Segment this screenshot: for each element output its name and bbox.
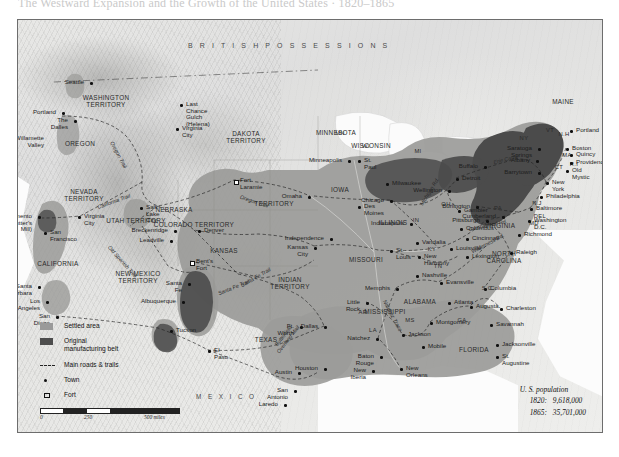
town-marker-icon xyxy=(566,170,569,173)
town-label: The Dalles xyxy=(51,117,68,130)
town-marker-icon xyxy=(460,228,463,231)
territory-label-iowa: IOWA xyxy=(331,187,349,194)
territory-label-maine: MAINE xyxy=(552,99,574,106)
town-marker-icon xyxy=(496,344,499,347)
scale-tick-miles-0: 0 xyxy=(40,414,43,420)
town-marker-icon xyxy=(458,210,461,213)
town-label: El Paso xyxy=(214,347,228,360)
state-abbr-label-vt: VT xyxy=(546,127,554,133)
town-marker-icon xyxy=(518,234,521,237)
scale-bar-kilometers: 0 250 500 kilometers xyxy=(40,432,200,433)
territory-label-wisconsin: WISCONSIN xyxy=(351,143,391,150)
town-marker-icon xyxy=(376,338,379,341)
legend-item-roads-trails: Main roads & trails xyxy=(40,361,170,369)
town-label: Baton Rouge xyxy=(356,353,374,366)
town-label: Washington D.C. xyxy=(534,217,566,230)
manufacturing-belt-santafe xyxy=(180,271,213,333)
town-marker-icon xyxy=(358,160,361,163)
legend-item-settled-area: Settled area xyxy=(40,322,170,330)
town-label: Houston xyxy=(295,365,318,372)
town-label: Memphis xyxy=(365,285,390,292)
town-label: San Francisco xyxy=(50,229,77,242)
town-marker-icon xyxy=(324,368,327,371)
town-label: Santa Fe xyxy=(166,280,182,293)
town-marker-icon xyxy=(74,120,77,123)
town-marker-icon xyxy=(456,178,459,181)
town-label: Seattle xyxy=(65,79,84,86)
town-label: San Antonio xyxy=(267,387,288,400)
territory-label-alabama: ALABAMA xyxy=(404,299,436,306)
state-abbr-label-pa: PA xyxy=(494,205,502,211)
town-marker-icon xyxy=(570,130,573,133)
town-marker-icon xyxy=(566,148,569,151)
population-row-1865: 1865: 35,701,000 xyxy=(530,407,586,418)
town-marker-icon xyxy=(546,182,549,185)
region-label-mexico: M E X I C O xyxy=(196,394,257,401)
town-marker-icon xyxy=(284,404,287,407)
town-marker-icon xyxy=(180,104,183,107)
town-marker-icon xyxy=(366,302,369,305)
town-label: Chicago xyxy=(361,197,384,204)
town-marker-icon xyxy=(400,368,403,371)
legend-item-town: Town xyxy=(40,376,170,384)
town-label: Salt Lake City xyxy=(146,204,159,224)
town-marker-icon xyxy=(476,206,479,209)
town-marker-icon xyxy=(358,206,361,209)
legend-label-fort: Fort xyxy=(64,391,76,399)
population-note: U. S. population 1820: 9,618,000 1865: 3… xyxy=(518,384,586,418)
state-abbr-label-wi: WI xyxy=(362,143,370,149)
town-label: Breckenridge xyxy=(132,227,168,234)
town-marker-icon xyxy=(330,238,333,241)
town-label: Independence xyxy=(285,235,324,242)
town-label: Portland xyxy=(576,127,599,134)
territory-label-california: CALIFORNIA xyxy=(37,261,78,268)
town-marker-icon xyxy=(470,306,473,309)
town-label: Natchez xyxy=(347,335,370,342)
town-marker-icon xyxy=(430,322,433,325)
town-label: Omaha xyxy=(282,193,302,200)
town-label: Indianapolis xyxy=(371,220,404,227)
town-marker-icon xyxy=(348,160,351,163)
town-label: Detroit xyxy=(462,175,480,182)
legend-item-fort: Fort xyxy=(40,391,170,399)
town-marker-icon xyxy=(466,256,469,259)
town-marker-icon xyxy=(208,350,211,353)
town-label: Willamette Valley xyxy=(17,135,44,148)
scale-bar-miles-ticks: 0 250 500 miles xyxy=(40,414,190,423)
town-label: Minneapolis xyxy=(309,157,342,164)
town-marker-icon xyxy=(38,286,41,289)
territory-label-missouri: MISSOURI xyxy=(349,257,383,264)
town-marker-icon xyxy=(410,223,413,226)
town-label: Philadelphia xyxy=(546,193,580,200)
town-label: Richmond xyxy=(524,231,552,238)
roads-trails-swatch xyxy=(40,361,57,367)
settled-area-socal xyxy=(42,280,71,315)
state-abbr-label-ms: MS xyxy=(405,317,414,323)
town-marker-icon xyxy=(448,302,451,305)
town-marker-icon xyxy=(78,216,81,219)
population-row-1820: 1820: 9,618,000 xyxy=(530,395,586,406)
territory-label-kansas: KANSAS xyxy=(210,248,238,255)
town-label: Santa Barbara xyxy=(17,283,32,296)
town-marker-icon xyxy=(62,112,65,115)
town-marker-icon xyxy=(500,308,503,311)
town-label: Old Mystic xyxy=(572,167,590,180)
town-label: Raleigh xyxy=(516,249,537,256)
state-abbr-label-mi: MI xyxy=(414,148,421,154)
state-abbr-label-n-h: N.H xyxy=(558,131,569,137)
page-top-cut-text: The Westward Expansion and the Growth of… xyxy=(18,0,598,10)
town-label: Tucson xyxy=(176,327,196,334)
town-label: Little Rock xyxy=(346,299,360,312)
town-marker-icon xyxy=(372,370,375,373)
town-label: Mobile xyxy=(428,343,446,350)
town-label: Dallas xyxy=(301,323,318,330)
town-marker-icon xyxy=(466,238,469,241)
town-label: Nashville xyxy=(422,272,447,279)
population-value-1820: 9,618,000 xyxy=(553,396,583,405)
town-label: Portland xyxy=(33,109,56,116)
town-marker-icon xyxy=(174,230,177,233)
fort-swatch xyxy=(40,391,57,398)
population-year-1865: 1865: xyxy=(530,408,547,417)
town-label: Providence xyxy=(576,159,603,166)
town-marker-icon xyxy=(484,166,487,169)
